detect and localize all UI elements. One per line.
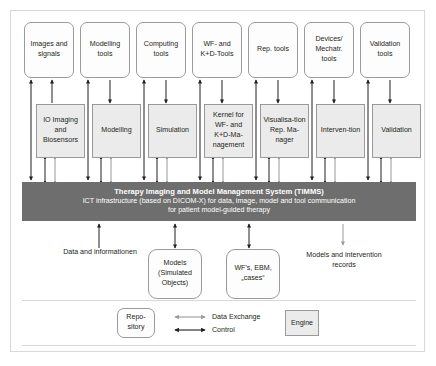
engine-box-label: Kernel for WF- and K+D-Ma-nagement — [207, 111, 250, 150]
engine-box-label: Validation — [381, 126, 412, 136]
legend-data-exchange-label: Data Exchange — [212, 313, 261, 321]
engine-box-visualisation-rep-manager[interactable]: Visualisa-tion Rep. Ma-nager — [260, 104, 309, 158]
tool-box-label: Images and signals — [27, 40, 71, 60]
engine-box-label: Modelling — [101, 126, 131, 136]
engine-box-label: IO Imaging and Biosensors — [39, 116, 82, 145]
timms-bar: Therapy Imaging and Model Management Sys… — [22, 182, 416, 221]
repository-label: Models (Simulated Objects) — [151, 259, 199, 288]
caption-data-and-informationen: Data and informationen — [62, 248, 138, 258]
engine-box-kernel-wf-kd-management[interactable]: Kernel for WF- and K+D-Ma-nagement — [204, 104, 253, 158]
tool-box-label: Devices/ Mechatr. tools — [307, 35, 351, 64]
legend-divider-bottom — [22, 345, 416, 346]
legend-engine-swatch: Engine — [285, 310, 319, 336]
legend-engine-label: Engine — [291, 319, 313, 327]
tool-box-images-and-signals[interactable]: Images and signals — [24, 22, 74, 78]
timms-title: Therapy Imaging and Model Management Sys… — [114, 187, 324, 197]
repository-label: WF's, EBM, „cases“ — [229, 264, 277, 284]
engine-box-simulation[interactable]: Simulation — [148, 104, 197, 158]
tool-box-modelling-tools[interactable]: Modelling tools — [80, 22, 130, 78]
engine-box-modelling[interactable]: Modelling — [92, 104, 141, 158]
tool-box-computing-tools[interactable]: Computing tools — [136, 22, 186, 78]
tool-box-label: Rep. tools — [257, 45, 289, 55]
tool-box-wf-and-kd-tools[interactable]: WF- and K+D-Tools — [192, 22, 242, 78]
legend-divider-top — [22, 300, 416, 301]
engine-box-io-imaging-and-biosensors[interactable]: IO Imaging and Biosensors — [36, 104, 85, 158]
tool-box-rep-tools[interactable]: Rep. tools — [248, 22, 298, 78]
repository-wf-ebm-cases[interactable]: WF's, EBM, „cases“ — [226, 249, 280, 299]
engine-box-label: Simulation — [156, 126, 189, 136]
timms-subtitle-line2: for patient model-guided therapy — [168, 206, 270, 215]
legend-control-label: Control — [212, 326, 235, 334]
repository-models-simulated-objects[interactable]: Models (Simulated Objects) — [148, 249, 202, 299]
timms-subtitle-line1: ICT infrastructure (based on DICOM-X) fo… — [83, 197, 356, 206]
caption-models-and-intervention-records: Models and intervention records — [305, 251, 383, 270]
legend-repository-swatch: Repo-sitory — [117, 308, 155, 338]
tool-box-label: Validation tools — [363, 40, 407, 60]
engine-box-label: Interven-tion — [321, 126, 360, 136]
diagram-root: Images and signals Modelling tools Compu… — [0, 0, 436, 366]
tool-box-devices-mechatr-tools[interactable]: Devices/ Mechatr. tools — [304, 22, 354, 78]
tool-box-label: Modelling tools — [83, 40, 127, 60]
engine-box-intervention[interactable]: Interven-tion — [316, 104, 365, 158]
tool-box-validation-tools[interactable]: Validation tools — [360, 22, 410, 78]
legend-repository-label: Repo-sitory — [118, 313, 154, 332]
engine-box-label: Visualisa-tion Rep. Ma-nager — [263, 116, 306, 145]
tool-box-label: WF- and K+D-Tools — [195, 40, 239, 60]
engine-box-validation[interactable]: Validation — [372, 104, 421, 158]
tool-box-label: Computing tools — [139, 40, 183, 60]
